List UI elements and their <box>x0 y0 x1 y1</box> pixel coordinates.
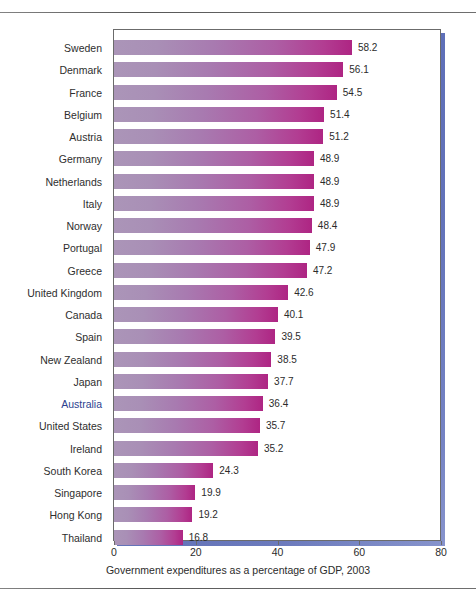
bar-value-label: 36.4 <box>269 396 288 411</box>
bar-chart-figure: SwedenDenmarkFranceBelgiumAustriaGermany… <box>0 12 476 588</box>
x-axis-tick-label: 20 <box>190 546 202 558</box>
x-axis-tick-label: 80 <box>435 546 447 558</box>
bar <box>114 307 278 322</box>
bar-value-label: 48.9 <box>320 151 339 166</box>
category-label: Austria <box>69 130 102 144</box>
category-label: Portugal <box>63 241 102 255</box>
bar <box>114 174 314 189</box>
category-label: Singapore <box>54 486 102 500</box>
bar-value-label: 38.5 <box>277 352 296 367</box>
bar <box>114 151 314 166</box>
bar-value-label: 58.2 <box>358 40 377 55</box>
x-axis: 020406080 <box>113 541 442 565</box>
bar <box>114 263 307 278</box>
category-label: Greece <box>68 264 102 278</box>
x-axis-tick-label: 0 <box>111 546 117 558</box>
bar-value-label: 24.3 <box>219 463 238 478</box>
category-axis-labels: SwedenDenmarkFranceBelgiumAustriaGermany… <box>0 29 108 541</box>
bar <box>114 418 260 433</box>
bar <box>114 240 310 255</box>
x-axis-tick <box>114 541 115 545</box>
bar-value-label: 42.6 <box>294 285 313 300</box>
bar <box>114 62 343 77</box>
category-label: Belgium <box>64 108 102 122</box>
bar <box>114 196 314 211</box>
category-label: Denmark <box>59 63 102 77</box>
page-rule-bottom <box>0 588 476 589</box>
bar <box>114 374 268 389</box>
category-label: New Zealand <box>40 353 102 367</box>
bar-value-label: 47.9 <box>316 240 335 255</box>
category-label: United Kingdom <box>27 286 102 300</box>
bar-value-label: 54.5 <box>343 85 362 100</box>
bar <box>114 352 271 367</box>
category-label: Sweden <box>64 41 102 55</box>
bar <box>114 441 258 456</box>
category-label: Canada <box>65 308 102 322</box>
x-axis-tick <box>441 541 442 545</box>
category-label: Japan <box>73 375 102 389</box>
bar-value-label: 56.1 <box>349 62 368 77</box>
bar-value-label: 51.2 <box>329 129 348 144</box>
bars-container: 58.256.154.551.451.248.948.948.948.447.9… <box>114 29 441 541</box>
bar <box>114 129 323 144</box>
x-axis-tick <box>359 541 360 545</box>
x-axis-tick <box>278 541 279 545</box>
bar <box>114 218 312 233</box>
bar-value-label: 35.7 <box>266 418 285 433</box>
x-axis-tick <box>196 541 197 545</box>
category-label: Netherlands <box>45 175 102 189</box>
category-label: Spain <box>75 330 102 344</box>
bar <box>114 329 275 344</box>
x-axis-tick-label: 60 <box>353 546 365 558</box>
bar-value-label: 51.4 <box>330 107 349 122</box>
bar-value-label: 39.5 <box>281 329 300 344</box>
category-label: France <box>69 86 102 100</box>
category-label: Thailand <box>62 531 102 545</box>
category-label: Italy <box>83 197 102 211</box>
bar <box>114 85 337 100</box>
bar-value-label: 19.2 <box>198 507 217 522</box>
bar <box>114 107 324 122</box>
bar-value-label: 40.1 <box>284 307 303 322</box>
bar <box>114 507 192 522</box>
bar-value-label: 35.2 <box>264 441 283 456</box>
bar-value-label: 48.4 <box>318 218 337 233</box>
x-axis-caption: Government expenditures as a percentage … <box>0 564 476 576</box>
bar <box>114 463 213 478</box>
category-label: Hong Kong <box>49 508 102 522</box>
bar-value-label: 19.9 <box>201 485 220 500</box>
bar-value-label: 48.9 <box>320 196 339 211</box>
category-label: Ireland <box>70 442 102 456</box>
bar <box>114 285 288 300</box>
bar-value-label: 37.7 <box>274 374 293 389</box>
bar <box>114 396 263 411</box>
category-label: South Korea <box>44 464 102 478</box>
bar-value-label: 47.2 <box>313 263 332 278</box>
category-label: Norway <box>66 219 102 233</box>
x-axis-tick-label: 40 <box>272 546 284 558</box>
bar <box>114 40 352 55</box>
bar <box>114 485 195 500</box>
bar-value-label: 48.9 <box>320 174 339 189</box>
category-label: United States <box>39 419 102 433</box>
category-label: Germany <box>59 152 102 166</box>
category-label: Australia <box>61 397 102 411</box>
